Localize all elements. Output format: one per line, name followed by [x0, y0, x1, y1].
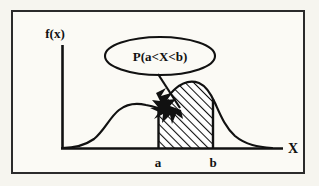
y-axis-label: f(x) — [45, 26, 65, 41]
x-axis-label: X — [288, 141, 298, 156]
figure-screenshot: f(x) X P(a<X<b) a b — [0, 0, 319, 186]
probability-callout-label: P(a<X<b) — [133, 49, 188, 64]
probability-density-figure: f(x) X P(a<X<b) a b — [0, 0, 319, 186]
lower-bound-label: a — [155, 155, 162, 170]
upper-bound-label: b — [209, 155, 216, 170]
